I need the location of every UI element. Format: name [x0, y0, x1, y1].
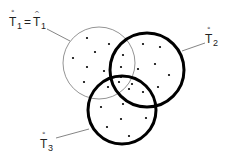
sample-point — [103, 70, 105, 72]
sample-point — [131, 83, 133, 85]
t3-subscript: 3 — [48, 143, 53, 153]
t2-subscript: 2 — [213, 38, 218, 48]
sample-point — [122, 54, 124, 56]
t2-base: T — [205, 32, 213, 46]
sample-point — [128, 135, 130, 137]
sample-point — [159, 46, 161, 48]
t3-label: ° T 3 — [40, 131, 53, 153]
t1-subscript: 1 — [17, 21, 22, 31]
venn-diagram: ° T 1 = ^ T 1 ° T 2 ° T 3 — [0, 0, 230, 161]
set-t2-circle — [110, 33, 184, 107]
t3-base: T — [40, 137, 48, 151]
sample-point — [120, 66, 122, 68]
sample-point — [142, 43, 144, 45]
sample-point — [120, 118, 122, 120]
sample-point — [106, 126, 108, 128]
t1-rhs-base: T — [33, 15, 41, 29]
sample-point — [168, 74, 170, 76]
sample-point — [86, 66, 88, 68]
sample-point — [122, 103, 124, 105]
t1-rhs-subscript: 1 — [41, 21, 46, 31]
t1-equals: = — [24, 15, 31, 29]
t3-leader-line — [56, 129, 89, 138]
sample-point — [83, 81, 85, 83]
t2-leader-line — [182, 43, 205, 51]
t1-label: ° T 1 = ^ T 1 — [9, 9, 46, 31]
t2-label: ° T 2 — [205, 26, 218, 48]
sample-point — [108, 43, 110, 45]
t1-base: T — [9, 15, 17, 29]
sample-point — [128, 88, 130, 90]
sample-point — [145, 117, 147, 119]
sample-point — [137, 68, 139, 70]
sample-point — [86, 37, 88, 39]
sample-point — [154, 63, 156, 65]
t1-leader-line — [47, 29, 70, 41]
set-t3-circle — [88, 76, 156, 144]
set-t1-circle — [63, 27, 135, 99]
sample-point — [142, 91, 144, 93]
sample-point — [118, 81, 120, 83]
sample-point — [94, 51, 96, 53]
sample-point — [157, 86, 159, 88]
sample-point — [100, 106, 102, 108]
sample-point — [72, 57, 74, 59]
sample-point — [107, 86, 109, 88]
